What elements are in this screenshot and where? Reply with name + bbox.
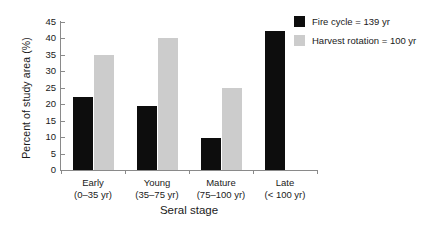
y-axis-tick-label: 40	[16, 33, 56, 43]
y-axis-tick-label: 10	[16, 132, 56, 142]
bar	[222, 88, 242, 170]
y-axis-tick-label: 0	[16, 165, 56, 175]
y-axis-tick-label: 15	[16, 116, 56, 126]
legend-label-harvest-rotation: Harvest rotation = 100 yr	[312, 35, 416, 46]
bar	[158, 38, 178, 170]
legend-label-fire-cycle: Fire cycle = 139 yr	[312, 16, 390, 27]
chart-legend: Fire cycle = 139 yr Harvest rotation = 1…	[294, 14, 416, 52]
y-axis-tick-label: 25	[16, 83, 56, 93]
x-axis-tick	[253, 171, 254, 174]
x-axis-tick	[189, 171, 190, 174]
y-axis-tick-label: 35	[16, 50, 56, 60]
y-axis-tick-label: 30	[16, 66, 56, 76]
bar	[73, 97, 93, 170]
x-axis-tick	[61, 171, 62, 174]
y-axis-tick-label: 20	[16, 99, 56, 109]
x-axis-tick	[125, 171, 126, 174]
bar	[201, 138, 221, 170]
bar	[94, 55, 114, 170]
x-axis-tick	[317, 171, 318, 174]
category-name: Early	[82, 177, 104, 188]
y-axis-tick-label: 45	[16, 17, 56, 27]
bar	[137, 106, 157, 170]
bar-chart-figure: Percent of study area (%) 05101520253035…	[0, 0, 426, 230]
category-name: Late	[276, 177, 295, 188]
x-axis-title: Seral stage	[61, 204, 317, 216]
x-axis-category-label: Late(< 100 yr)	[230, 177, 340, 200]
y-axis-tick-label: 5	[16, 149, 56, 159]
legend-item-harvest-rotation: Harvest rotation = 100 yr	[294, 33, 416, 48]
category-range: (< 100 yr)	[230, 189, 340, 201]
legend-item-fire-cycle: Fire cycle = 139 yr	[294, 14, 416, 29]
legend-swatch-fire-cycle	[294, 16, 305, 27]
bars-container	[61, 22, 317, 170]
legend-swatch-harvest-rotation	[294, 35, 305, 46]
bar	[265, 31, 285, 170]
